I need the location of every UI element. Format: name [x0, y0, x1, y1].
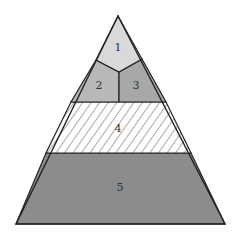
pyramid-diagram: 1 2 3 4 5: [0, 0, 241, 237]
section-5-label: 5: [117, 181, 124, 194]
section-1-label: 1: [115, 41, 122, 54]
section-3-label: 3: [133, 79, 140, 92]
section-2-label: 2: [96, 79, 103, 92]
section-4-label: 4: [115, 122, 122, 135]
